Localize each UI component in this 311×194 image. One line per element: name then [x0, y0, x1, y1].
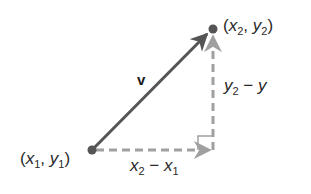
start-point-label: (x1, y1): [20, 150, 70, 170]
start-x-sub: 1: [34, 158, 40, 170]
end-x-var: x: [229, 16, 238, 35]
v-a-var: y: [224, 76, 233, 95]
vector-v-arrow: [92, 34, 207, 150]
v-b-var: y: [258, 76, 267, 95]
horizontal-component-label: x2 − x1: [130, 157, 179, 177]
end-x-sub: 2: [237, 25, 243, 37]
vertical-component-label: y2 − y: [224, 77, 267, 97]
start-x-var: x: [26, 149, 35, 168]
v-a-sub: 2: [233, 85, 239, 97]
h-b-var: x: [164, 156, 173, 175]
vector-label: v: [137, 72, 145, 87]
h-a-sub: 2: [139, 165, 145, 177]
end-point: [209, 25, 218, 34]
v-op: −: [243, 76, 253, 95]
start-point: [88, 146, 97, 155]
h-op: −: [149, 156, 159, 175]
end-point-label: (x2, y2): [223, 17, 273, 37]
end-y-sub: 2: [261, 25, 267, 37]
start-y-sub: 1: [58, 158, 64, 170]
h-b-sub: 1: [173, 165, 179, 177]
h-a-var: x: [130, 156, 139, 175]
start-y-var: y: [50, 149, 59, 168]
end-y-var: y: [253, 16, 262, 35]
right-angle-marker: [198, 136, 213, 150]
